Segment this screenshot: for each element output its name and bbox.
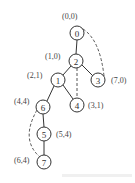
- edge-1-4: [63, 85, 73, 99]
- node-label: 2: [74, 57, 79, 67]
- node-6: 6(4,4): [14, 97, 50, 114]
- node-0: 0(0,0): [62, 12, 84, 40]
- node-1: 1(2,1): [27, 71, 65, 87]
- node-2: 2(1,0): [45, 52, 83, 68]
- node-coordinate: (7,0): [111, 76, 127, 85]
- node-4: 4(3,1): [70, 98, 104, 112]
- edge-2-3: [82, 65, 93, 76]
- node-coordinate: (2,1): [27, 71, 43, 80]
- edge-2-1: [63, 66, 71, 75]
- edge-1-6: [47, 86, 54, 101]
- node-5: 5(5,4): [37, 127, 72, 141]
- node-label: 3: [96, 76, 101, 86]
- caption-fragment: [62, 174, 132, 177]
- node-label: 6: [41, 103, 46, 113]
- node-label: 7: [42, 158, 47, 168]
- edge-0-2: [76, 40, 77, 54]
- node-label: 5: [42, 130, 47, 140]
- edge-6-5: [43, 114, 44, 127]
- node-coordinate: (3,1): [88, 101, 104, 110]
- node-coordinate: (6,4): [14, 156, 30, 165]
- node-coordinate: (0,0): [62, 12, 78, 21]
- tree-diagram: 0(0,0)2(1,0)3(7,0)1(2,1)4(3,1)6(4,4)5(5,…: [0, 0, 135, 183]
- node-coordinate: (1,0): [45, 52, 61, 61]
- node-label: 0: [75, 29, 80, 39]
- node-label: 1: [56, 76, 61, 86]
- node-7: 7(6,4): [14, 155, 51, 169]
- node-3: 3(7,0): [91, 73, 127, 87]
- node-coordinate: (4,4): [14, 97, 30, 106]
- node-coordinate: (5,4): [56, 130, 72, 139]
- node-label: 4: [75, 101, 80, 111]
